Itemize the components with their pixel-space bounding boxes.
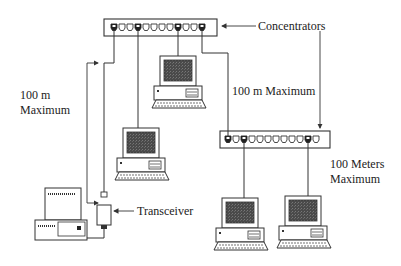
aui-connector bbox=[101, 192, 107, 197]
workstation-bottom-right bbox=[277, 196, 331, 248]
label-transceiver: Transceiver bbox=[137, 204, 193, 218]
label-right-distance-line1: 100 Meters bbox=[330, 157, 384, 171]
network-diagram bbox=[0, 0, 401, 266]
workstation-bottom-left bbox=[214, 198, 268, 250]
label-concentrators: Concentrators bbox=[258, 19, 325, 33]
workstation-left bbox=[115, 128, 169, 180]
label-left-distance-line2: Maximum bbox=[20, 103, 70, 117]
transceiver bbox=[97, 205, 111, 229]
label-middle-distance: 100 m Maximum bbox=[232, 84, 315, 98]
workstation-upper-middle bbox=[152, 56, 206, 108]
annotations bbox=[87, 26, 320, 211]
desktop-pc-transceiver bbox=[35, 188, 87, 240]
cable-top-to-transceiver bbox=[104, 31, 114, 192]
left-distance-bracket bbox=[87, 63, 98, 203]
concentrator-bottom bbox=[220, 131, 330, 148]
concentrator-top bbox=[104, 19, 217, 36]
label-left-distance-line1: 100 m bbox=[20, 88, 50, 102]
label-right-distance-line2: Maximum bbox=[330, 172, 380, 186]
cable-top-to-bottom-concentrator bbox=[202, 31, 228, 137]
